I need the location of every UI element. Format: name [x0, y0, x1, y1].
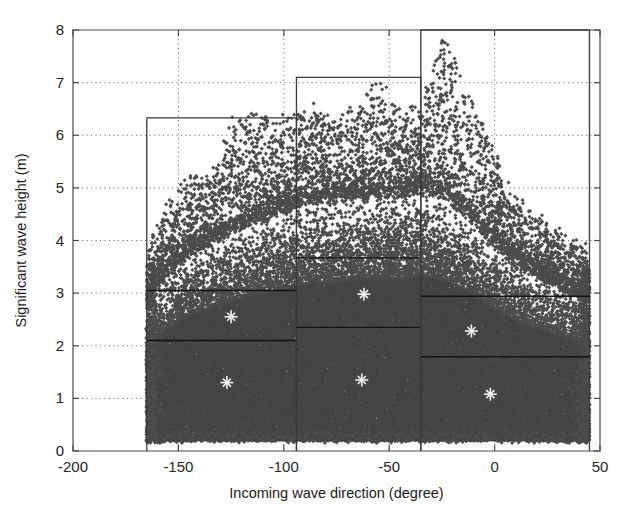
x-tick-label: -100: [269, 458, 299, 475]
chart-svg: 012345678-200-150-100-50050Incoming wave…: [0, 0, 634, 517]
x-axis-title: Incoming wave direction (degree): [229, 485, 443, 501]
y-tick-label: 1: [56, 389, 64, 406]
scatter-plot-canvas: 012345678-200-150-100-50050Incoming wave…: [0, 0, 634, 517]
y-tick-label: 3: [56, 284, 64, 301]
figure-container: 012345678-200-150-100-50050Incoming wave…: [0, 0, 634, 517]
y-axis-title: Significant wave height (m): [13, 153, 29, 327]
y-tick-label: 8: [56, 21, 64, 38]
x-tick-label: -50: [378, 458, 400, 475]
x-tick-label: 50: [592, 458, 609, 475]
y-tick-label: 4: [56, 232, 64, 249]
y-tick-label: 6: [56, 126, 64, 143]
x-tick-label: -150: [163, 458, 193, 475]
y-tick-label: 0: [56, 442, 64, 459]
y-tick-label: 7: [56, 74, 64, 91]
data-points-layer: [144, 39, 592, 446]
y-tick-label: 2: [56, 337, 64, 354]
x-tick-label: -200: [58, 458, 88, 475]
x-tick-label: 0: [490, 458, 498, 475]
y-tick-label: 5: [56, 179, 64, 196]
